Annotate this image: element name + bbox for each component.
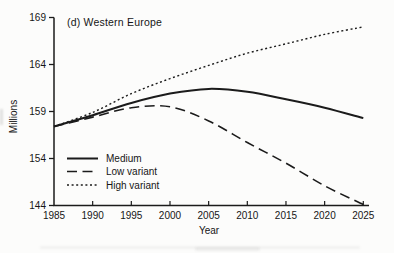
x-axis-title: Year <box>24 225 394 236</box>
population-projection-line-chart: 1691641591541441985199019952000200520102… <box>0 0 394 253</box>
x-tick-label: 2000 <box>159 210 182 221</box>
legend-label: Low variant <box>106 166 157 177</box>
x-tick-label: 1990 <box>82 210 105 221</box>
x-tick-label: 2010 <box>236 210 259 221</box>
x-tick-label: 1995 <box>120 210 143 221</box>
figure-panel-western-europe: 1691641591541441985199019952000200520102… <box>0 0 394 253</box>
curve-high-variant <box>54 27 363 127</box>
x-tick-label: 1985 <box>43 210 66 221</box>
y-tick-label: 154 <box>29 153 46 164</box>
legend-label: Medium <box>106 153 142 164</box>
y-tick-label: 159 <box>29 106 46 117</box>
x-tick-label: 2020 <box>314 210 337 221</box>
y-axis-title: Millions <box>8 87 19 147</box>
x-tick-label: 2015 <box>275 210 298 221</box>
y-tick-label: 164 <box>29 59 46 70</box>
legend-label: High variant <box>106 180 160 191</box>
y-tick-label: 169 <box>29 12 46 23</box>
curve-low-variant <box>54 106 363 205</box>
chart-title: (d) Western Europe <box>67 16 162 28</box>
x-tick-label: 2025 <box>352 210 375 221</box>
x-tick-label: 2005 <box>198 210 221 221</box>
